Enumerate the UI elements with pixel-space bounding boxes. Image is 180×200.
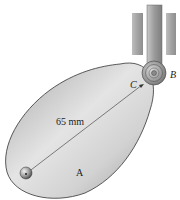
left-guide xyxy=(132,13,143,55)
roller xyxy=(142,61,166,85)
right-guide xyxy=(166,13,176,55)
cam-follower-diagram: 65 mm A C B xyxy=(0,0,180,200)
contact-point-label: C xyxy=(130,79,137,90)
dimension-label: 65 mm xyxy=(56,116,84,127)
follower-label: B xyxy=(170,69,176,80)
roller-pin xyxy=(152,71,157,76)
pivot-label: A xyxy=(76,167,84,178)
